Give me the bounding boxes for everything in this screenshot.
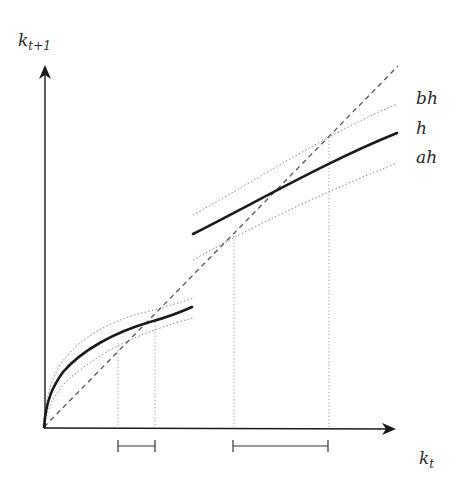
- x-axis-label: kt: [419, 448, 434, 471]
- x-axis: [44, 428, 394, 429]
- h-label: h: [416, 118, 427, 138]
- h-curve: [44, 133, 397, 427]
- diagram-canvas: kt+1 kt bh h ah: [0, 0, 463, 486]
- interval-bracket-high: [233, 440, 328, 452]
- bh-curve-right: [193, 104, 397, 215]
- ah-curve-right: [193, 163, 397, 260]
- interval-bracket-low: [118, 440, 155, 452]
- h-curve-right: [193, 133, 397, 234]
- ah-label: ah: [416, 147, 437, 167]
- 45-degree-line: [44, 66, 398, 427]
- bh-label: bh: [416, 88, 438, 108]
- y-axis-label: kt+1: [18, 30, 51, 53]
